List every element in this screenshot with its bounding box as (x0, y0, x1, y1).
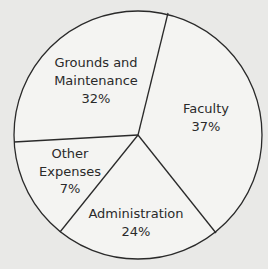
svg-text:7%: 7% (60, 181, 81, 196)
svg-text:37%: 37% (192, 119, 221, 134)
svg-text:Administration: Administration (88, 206, 183, 221)
svg-text:Faculty: Faculty (183, 101, 229, 116)
svg-text:32%: 32% (82, 91, 111, 106)
svg-text:Maintenance: Maintenance (54, 73, 138, 88)
svg-text:24%: 24% (122, 224, 151, 239)
svg-text:Grounds and: Grounds and (54, 55, 137, 70)
svg-text:Expenses: Expenses (39, 164, 101, 179)
svg-text:Other: Other (52, 146, 90, 161)
pie-chart: Faculty 37% Administration 24% Other Exp… (0, 0, 268, 269)
